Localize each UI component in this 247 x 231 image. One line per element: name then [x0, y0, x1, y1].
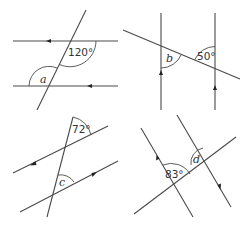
angle-label-known: 83°	[165, 168, 184, 180]
angle-label-unknown: d	[193, 153, 200, 166]
angle-label-known: 50°	[197, 50, 216, 62]
transversal-line	[47, 117, 73, 217]
diagram-bottom-right: 83° d	[134, 115, 236, 217]
angle-label-known: 120°	[68, 46, 93, 58]
parallel-line-lower	[20, 161, 118, 212]
angles-diagram-sheet: 120° a b 50° 72° c 83° d	[0, 0, 247, 231]
diagram-top-left: 120° a	[13, 10, 118, 110]
angle-label-unknown: b	[166, 52, 173, 65]
angle-label-unknown: a	[40, 73, 47, 86]
angle-label-unknown: c	[59, 176, 65, 189]
arrow-left-icon	[87, 84, 92, 88]
transversal-line	[123, 30, 240, 79]
diagram-top-right: b 50°	[123, 13, 240, 110]
arrow-up-icon	[159, 70, 163, 75]
arrow-up-icon	[213, 85, 217, 90]
angle-label-known: 72°	[72, 123, 91, 135]
arrow-left-icon	[30, 161, 37, 166]
transversal-line	[37, 10, 86, 110]
arrow-right-icon	[92, 172, 98, 177]
arrow-left-icon	[46, 39, 51, 43]
diagram-bottom-left: 72° c	[13, 117, 118, 217]
